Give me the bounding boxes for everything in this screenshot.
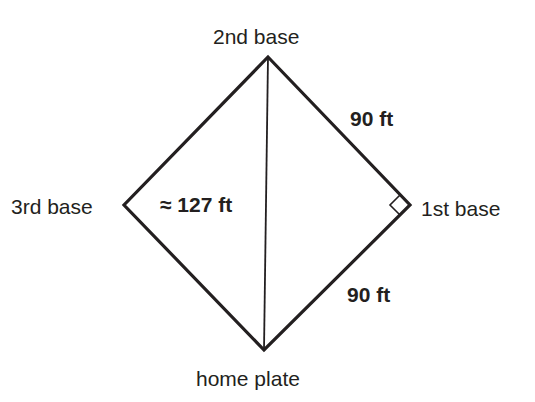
diagonal-measurement: ≈ 127 ft	[160, 194, 232, 215]
diagonal-line	[264, 57, 268, 350]
first-base-label: 1st base	[421, 198, 500, 219]
lower-side-measurement: 90 ft	[347, 284, 390, 305]
third-base-label: 3rd base	[11, 196, 93, 217]
upper-side-measurement: 90 ft	[350, 108, 393, 129]
right-angle-marker	[390, 195, 400, 215]
second-base-label: 2nd base	[213, 26, 299, 47]
home-plate-label: home plate	[196, 368, 300, 389]
